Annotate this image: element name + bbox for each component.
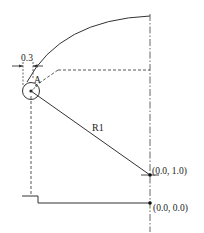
dimension-label: 0.3	[21, 53, 33, 63]
point-a-label: A	[34, 75, 41, 85]
radius-line	[31, 91, 150, 175]
point-origin-marker	[148, 201, 152, 205]
point-origin-label: (0.0, 0.0)	[153, 203, 188, 214]
radius-label: R1	[92, 122, 104, 133]
base-step	[22, 196, 150, 203]
outer-arc	[27, 16, 150, 82]
diagram-canvas: 0.3 A R1 (0.0, 1.0) (0.0, 0.0)	[0, 0, 204, 233]
point-top-label: (0.0, 1.0)	[152, 166, 187, 177]
